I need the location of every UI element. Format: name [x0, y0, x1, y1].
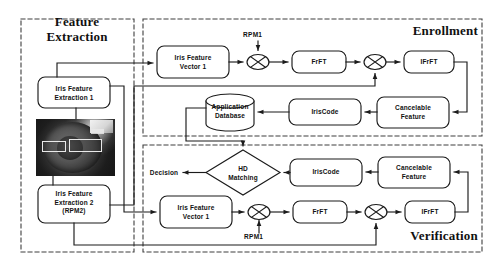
roi-box-left: [42, 141, 66, 152]
panel-title-enrollment: Enrollment: [378, 24, 478, 39]
label-verify-rpm1: RPM1: [244, 233, 263, 240]
edge-ife1-to-enroll-ifv1: [57, 63, 153, 77]
node-enroll-cancelable-feature[interactable]: [377, 97, 449, 128]
node-enroll-frft[interactable]: [292, 51, 346, 73]
node-enroll-iris-feature-vector-1[interactable]: [157, 46, 229, 78]
panel-title-feature-extraction: Feature Extraction: [22, 15, 132, 45]
node-application-database[interactable]: [206, 94, 254, 131]
edge-enroll-ifrft-to-cancelable-feature: [453, 62, 467, 112]
iris-specular-highlight-secondary: [91, 129, 104, 134]
edge-verify-ifrft-to-cancelable-feature: [454, 172, 468, 212]
node-verify-frft[interactable]: [293, 201, 347, 223]
operator-verify-multiply-1[interactable]: [248, 205, 270, 220]
node-hd-matching[interactable]: [206, 150, 280, 195]
edge-ife1-to-verify-ifv1: [110, 86, 156, 212]
roi-box-right: [69, 139, 102, 152]
panel-title-verification: Verification: [368, 229, 478, 244]
node-enroll-ifrft[interactable]: [404, 51, 454, 73]
operator-enroll-multiply-1[interactable]: [247, 55, 269, 70]
diagram-canvas: Feature Extraction Enrollment Verificati…: [0, 0, 491, 265]
node-verify-cancelable-feature[interactable]: [378, 157, 450, 188]
node-iris-feature-extraction-1[interactable]: [38, 77, 110, 108]
iris-eye-image: [36, 119, 115, 176]
node-verify-ifrft[interactable]: [405, 201, 455, 223]
node-verify-iriscode[interactable]: [290, 159, 362, 186]
node-enroll-iriscode[interactable]: [289, 99, 361, 125]
label-enroll-rpm1: RPM1: [243, 31, 262, 38]
node-verify-iris-feature-vector-1[interactable]: [160, 196, 232, 228]
operator-enroll-multiply-2[interactable]: [364, 55, 386, 70]
operator-verify-multiply-2[interactable]: [365, 205, 387, 220]
node-iris-feature-extraction-2[interactable]: [38, 185, 110, 223]
